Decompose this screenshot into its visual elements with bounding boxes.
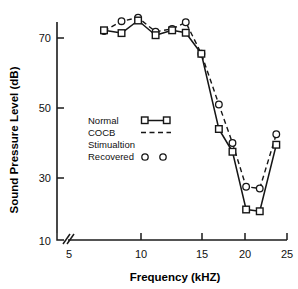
x-tick-label-10: 10	[135, 248, 147, 260]
data-point-recovered	[273, 131, 280, 138]
axis-break-stub	[57, 233, 64, 240]
data-point-recovered	[182, 19, 189, 26]
normal-polyline	[104, 21, 276, 212]
y-axis-title: Sound Pressure Level (dB)	[8, 66, 20, 213]
data-point-normal	[182, 29, 189, 36]
x-tick-group: 5 10 15 20 25	[66, 233, 293, 260]
data-point-normal	[101, 27, 108, 34]
data-point-normal	[135, 17, 142, 24]
legend-sample-normal	[142, 117, 171, 124]
data-point-normal	[152, 32, 159, 39]
series-normal-markers	[101, 17, 280, 214]
data-point-normal	[118, 30, 125, 37]
y-tick-group: 70 50 30 10	[39, 32, 64, 247]
data-point-normal	[256, 208, 263, 215]
legend-label-recovered: Recovered	[88, 151, 134, 162]
y-tick-label-30: 30	[39, 172, 51, 184]
data-point-recovered	[118, 18, 125, 25]
series-cocb-line	[104, 18, 276, 189]
legend-label-cocb: COCB	[88, 127, 115, 138]
data-point-normal	[169, 27, 176, 34]
x-axis-title: Frequency (kHZ)	[130, 271, 221, 283]
data-point-normal	[229, 148, 236, 155]
data-point-recovered	[243, 183, 250, 190]
x-tick-label-25: 25	[281, 248, 293, 260]
legend-sample-recovered	[142, 154, 166, 160]
cocb-polyline	[104, 18, 276, 189]
data-point-recovered	[229, 140, 236, 147]
x-tick-label-15: 15	[196, 248, 208, 260]
y-tick-label-70: 70	[39, 32, 51, 44]
legend-label-stimualtion: Stimualtion	[88, 139, 135, 150]
y-tick-label-50: 50	[39, 102, 51, 114]
x-tick-label-20: 20	[239, 248, 251, 260]
data-point-recovered	[216, 101, 223, 108]
data-point-normal	[198, 50, 205, 57]
data-point-normal	[273, 141, 280, 148]
data-point-normal	[216, 126, 223, 133]
series-normal-line	[104, 21, 276, 212]
y-tick-label-10: 10	[39, 235, 51, 247]
series-recovered-markers	[101, 14, 280, 191]
figure-container: Sound Pressure Level (dB) Frequency (kHZ…	[0, 0, 298, 289]
legend-label-normal: Normal	[88, 115, 119, 126]
data-point-recovered	[256, 185, 263, 192]
chart-canvas: Sound Pressure Level (dB) Frequency (kHZ…	[0, 0, 298, 289]
x-tick-label-5: 5	[66, 248, 72, 260]
legend: Normal COCB Stimualtion Recovered	[88, 115, 171, 162]
data-point-normal	[243, 206, 250, 213]
